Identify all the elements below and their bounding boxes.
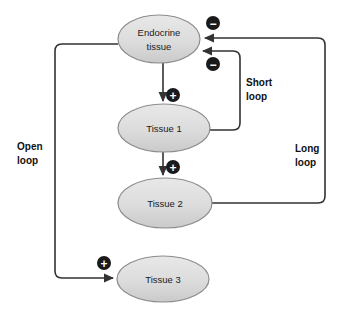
plus-badge-glyph: + (100, 257, 107, 271)
label-open-loop: Open loop (17, 141, 43, 166)
plus-badge-glyph: + (169, 161, 176, 175)
label-short-loop-line1: Short (246, 77, 273, 88)
node-tissue-3[interactable]: Tissue 3 (117, 256, 209, 302)
node-tissue-1-label: Tissue 1 (146, 123, 182, 134)
label-open-loop-line2: loop (17, 155, 38, 166)
endocrine-feedback-diagram: Endocrine tissue Tissue 1 Tissue 2 Tissu… (0, 0, 341, 317)
node-endocrine-tissue-shape (118, 15, 200, 63)
plus-sign-badge-open-loop-to-tissue3: + (97, 256, 111, 271)
label-short-loop: Short loop (246, 77, 273, 102)
minus-badge-glyph: − (209, 58, 216, 72)
label-short-loop-line2: loop (246, 91, 267, 102)
node-endocrine-tissue-label-line1: Endocrine (138, 27, 181, 38)
label-long-loop-line1: Long (295, 143, 319, 154)
node-tissue-2-label: Tissue 2 (147, 198, 183, 209)
label-open-loop-line1: Open (17, 141, 43, 152)
diagram-canvas: Endocrine tissue Tissue 1 Tissue 2 Tissu… (0, 0, 341, 317)
connection-open-loop-to-tissue-3 (55, 44, 118, 278)
label-long-loop: Long loop (295, 143, 319, 168)
plus-badge-glyph: + (169, 89, 176, 103)
node-tissue-1[interactable]: Tissue 1 (118, 104, 210, 152)
node-endocrine-tissue-label-line2: tissue (147, 41, 172, 52)
node-tissue-3-label: Tissue 3 (145, 274, 181, 285)
minus-badge-glyph: − (209, 17, 216, 31)
connection-long-loop-feedback (205, 38, 325, 203)
plus-sign-badge-endocrine-to-tissue1: + (166, 88, 180, 103)
plus-sign-badge-tissue1-to-tissue2: + (166, 160, 180, 175)
minus-sign-badge-long-loop: − (206, 16, 220, 31)
node-tissue-2[interactable]: Tissue 2 (118, 178, 212, 228)
minus-sign-badge-short-loop: − (206, 57, 220, 72)
label-long-loop-line2: loop (295, 157, 316, 168)
node-endocrine-tissue[interactable]: Endocrine tissue (118, 15, 200, 63)
